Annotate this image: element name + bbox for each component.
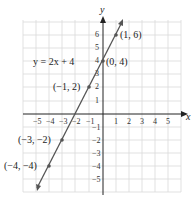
svg-text:−4: −4 — [92, 162, 101, 171]
svg-text:−4: −4 — [46, 117, 55, 126]
svg-text:1: 1 — [95, 96, 99, 105]
svg-text:−5: −5 — [92, 175, 101, 184]
svg-text:(−3, −2): (−3, −2) — [18, 134, 51, 146]
svg-text:4: 4 — [153, 117, 157, 126]
y-ticks: 654321 −1−2−3−4−5 — [92, 30, 101, 184]
equation-label: y = 2x + 4 — [33, 56, 74, 67]
svg-text:−3: −3 — [59, 117, 68, 126]
svg-text:−3: −3 — [92, 149, 101, 158]
x-ticks: −5−4−3−2−1 12345 — [33, 117, 170, 126]
svg-text:(−4, −4): (−4, −4) — [4, 160, 37, 172]
svg-text:5: 5 — [95, 43, 99, 52]
svg-text:−2: −2 — [92, 136, 101, 145]
svg-text:3: 3 — [140, 117, 144, 126]
svg-text:−5: −5 — [33, 117, 42, 126]
point-labels: (1, 6) (0, 4) (−1, 2) (−3, −2) (−4, −4) … — [4, 29, 142, 172]
svg-text:(−1, 2): (−1, 2) — [53, 81, 80, 93]
svg-text:(1, 6): (1, 6) — [120, 29, 142, 41]
svg-text:5: 5 — [166, 117, 170, 126]
svg-text:4: 4 — [95, 56, 99, 65]
y-axis-label: y — [99, 4, 105, 15]
svg-text:2: 2 — [95, 82, 99, 91]
svg-text:−1: −1 — [92, 123, 101, 132]
coordinate-plane: x y −5−4−3−2−1 12345 654321 −1−2−3−4−5 (… — [0, 0, 193, 202]
svg-text:(0, 4): (0, 4) — [106, 56, 128, 68]
svg-text:2: 2 — [127, 117, 131, 126]
x-axis-label: x — [185, 111, 191, 122]
svg-text:1: 1 — [114, 117, 118, 126]
grid — [23, 20, 181, 192]
svg-text:6: 6 — [95, 30, 99, 39]
